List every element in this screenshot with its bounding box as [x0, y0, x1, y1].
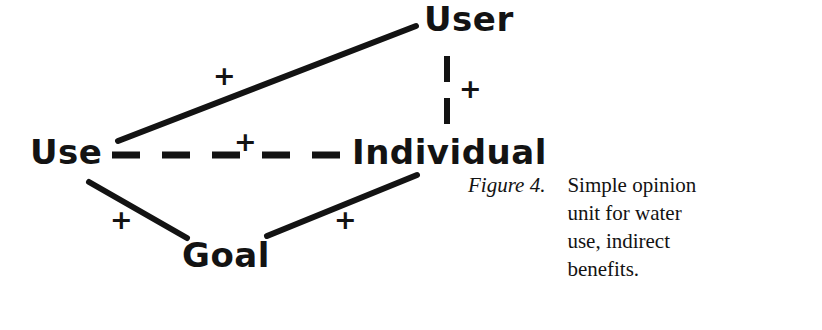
- caption-line: benefits.: [567, 255, 808, 283]
- figure-caption-text: Simple opinion unit for water use, indir…: [567, 171, 808, 283]
- figure-caption-number: Figure 4.: [468, 171, 567, 199]
- node-label-individual: Individual: [352, 135, 547, 169]
- node-label-use: Use: [30, 135, 102, 169]
- edge-sign-use-goal: +: [110, 206, 133, 233]
- edge-sign-use-individual: +: [234, 128, 257, 155]
- node-label-goal: Goal: [182, 238, 270, 272]
- caption-line: unit for water: [567, 199, 808, 227]
- diagram-area: Use User Individual Goal + + + + +: [0, 0, 540, 300]
- node-label-user: User: [424, 2, 514, 36]
- edge-use-goal: [89, 182, 187, 238]
- caption-line: Simple opinion: [567, 171, 808, 199]
- caption-line: use, indirect: [567, 227, 808, 255]
- edge-use-user: [118, 26, 416, 141]
- edge-sign-user-individual: +: [459, 75, 482, 102]
- edge-sign-goal-individual: +: [334, 206, 357, 233]
- figure-caption: Figure 4. Simple opinion unit for water …: [468, 171, 808, 283]
- figure-panel: Use User Individual Goal + + + + + Figur…: [0, 0, 822, 330]
- edge-sign-use-user: +: [213, 62, 236, 89]
